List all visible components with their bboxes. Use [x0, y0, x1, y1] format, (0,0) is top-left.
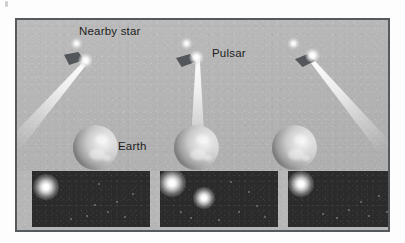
scene-left: [23, 20, 141, 188]
illustration-frame: Nearby star Pulsar Earth: [15, 18, 390, 232]
scene-right: [269, 20, 387, 188]
panel-faint-star: [322, 213, 324, 215]
panel-faint-star: [70, 218, 72, 220]
pulsar-point-left: [78, 53, 93, 68]
label-pulsar: Pulsar: [212, 47, 246, 59]
nearby-star-right: [287, 37, 300, 50]
panel-faint-star: [107, 211, 109, 213]
panel-faint-star: [336, 217, 338, 219]
panel-faint-star: [386, 211, 388, 213]
scene-middle: [148, 20, 266, 188]
earth-landmass: [196, 135, 209, 144]
panel-faint-star: [238, 211, 240, 213]
panel-faint-star: [86, 215, 88, 217]
earth-landmass: [103, 155, 111, 161]
panel-faint-star: [378, 195, 380, 197]
panel-faint-star: [248, 191, 250, 193]
observation-panel-row: [17, 170, 388, 232]
panel-bright-star: [33, 174, 59, 200]
panel-bright-star: [288, 171, 314, 197]
panel-faint-star: [348, 209, 350, 211]
panel-faint-star: [116, 201, 118, 203]
earth-left: [73, 125, 118, 170]
label-nearby-star: Nearby star: [79, 25, 141, 37]
pulsar-beam-right: [306, 58, 390, 156]
earth-right: [272, 125, 317, 170]
panel-bright-star: [193, 187, 215, 209]
observation-panel-1: [32, 171, 150, 227]
panel-faint-star: [98, 183, 100, 185]
panel-faint-star: [190, 217, 192, 219]
panel-faint-star: [360, 201, 362, 203]
nearby-star-middle: [180, 37, 193, 50]
earth-landmass: [302, 155, 310, 161]
observation-panel-3: [288, 171, 390, 227]
scan-artifact-speck: [5, 1, 8, 7]
panel-faint-star: [180, 211, 182, 213]
panel-faint-star: [256, 205, 258, 207]
nearby-star-left: [70, 37, 83, 50]
earth-landmass: [204, 155, 212, 161]
earth-landmass: [95, 135, 108, 144]
pulsar-point-middle: [189, 50, 204, 65]
pulsar-point-right: [305, 48, 320, 63]
panel-faint-star: [368, 215, 370, 217]
observation-panel-2: [160, 171, 278, 227]
earth-middle: [174, 125, 219, 170]
panel-faint-star: [230, 181, 232, 183]
panel-faint-star: [124, 216, 126, 218]
panel-faint-star: [94, 204, 96, 206]
figure-container: Nearby star Pulsar Earth: [0, 0, 405, 243]
panel-faint-star: [132, 193, 134, 195]
panel-faint-star: [218, 219, 220, 221]
label-earth: Earth: [118, 140, 147, 152]
panel-faint-star: [264, 216, 266, 218]
earth-landmass: [294, 135, 307, 144]
